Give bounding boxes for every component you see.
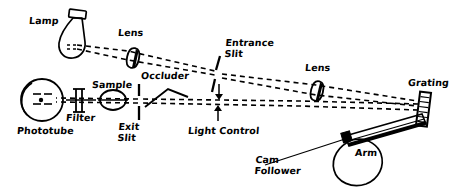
entrance-slit-jaw-upper: [216, 56, 220, 70]
label-light-control: Light Control: [188, 126, 260, 137]
filter-icon: [66, 89, 96, 112]
phototube-inner-arc: [22, 83, 32, 115]
label-exit-slit: Exit Slit: [117, 122, 140, 143]
optical-schematic-figure: Lamp Lens Entrance Slit Lens Grating Occ…: [0, 0, 464, 192]
lens-right-icon: [309, 80, 325, 102]
label-lens-left: Lens: [118, 28, 144, 39]
label-cam-follower: Cam Follower: [254, 155, 302, 176]
arm-inner-line: [347, 119, 424, 141]
label-lens-right: Lens: [305, 63, 331, 74]
label-phototube: Phototube: [17, 126, 75, 137]
entrance-slit-jaw-lower: [212, 79, 215, 92]
label-lamp: Lamp: [29, 16, 59, 27]
cam-follower-body: [333, 139, 382, 186]
lamp-icon: [59, 9, 87, 58]
light-control-icon: [214, 84, 223, 121]
label-sample: Sample: [92, 80, 133, 91]
label-arm: Arm: [355, 148, 378, 159]
label-grating: Grating: [408, 78, 450, 89]
phototube-anode: [39, 98, 43, 102]
lamp-envelope: [59, 18, 85, 58]
beam-lamp-entrance-upper: [77, 45, 215, 71]
sample-icon: [98, 90, 128, 110]
light-control-arrowhead-up: [214, 105, 222, 111]
label-filter: Filter: [66, 113, 96, 124]
arm-icon: [341, 114, 426, 146]
light-control-arrowhead-down: [215, 94, 223, 100]
schematic-drawing: [0, 0, 464, 192]
phototube-icon: [21, 79, 63, 121]
lens-left-icon: [125, 47, 141, 69]
grating-icon: [416, 92, 431, 127]
label-entrance-slit: Entrance Slit: [224, 38, 274, 59]
lamp-base: [69, 9, 87, 19]
beam-grating-exit-lower: [140, 103, 418, 110]
label-occluder: Occluder: [141, 71, 190, 82]
